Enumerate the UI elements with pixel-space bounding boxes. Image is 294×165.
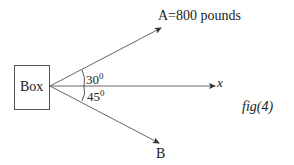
vector-a-label: A=800 pounds (158, 9, 241, 23)
box-label: Box (20, 80, 43, 94)
angle-a-value: 30 (86, 72, 99, 87)
angle-b-label: 450 (87, 89, 105, 103)
angle-b-degree: 0 (100, 88, 105, 98)
vector-a-arrow (50, 28, 161, 86)
force-diagram (0, 0, 294, 165)
angle-arc-a (82, 70, 85, 86)
angle-arc-b (82, 86, 85, 101)
x-axis-label: x (217, 76, 223, 89)
figure-label: fig(4) (242, 100, 273, 114)
angle-a-degree: 0 (99, 71, 104, 81)
angle-a-label: 300 (86, 72, 104, 86)
angle-b-value: 45 (87, 89, 100, 104)
vector-b-label: B (156, 147, 165, 161)
